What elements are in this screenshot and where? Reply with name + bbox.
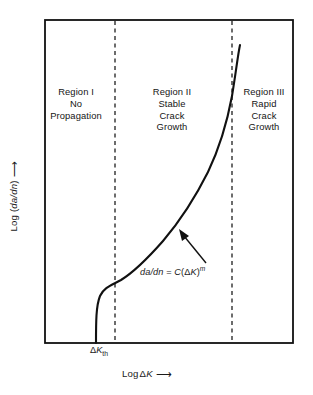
region-1-label: Region I No Propagation [38,86,114,121]
equation-exponent: m [200,265,206,272]
paris-law-equation: da/dn = C(ΔΔKK)m [140,265,205,277]
region-3-line-1: Region III [233,86,295,98]
region-2-line-3: Crack [122,110,222,122]
region-3-label: Region III Rapid Crack Growth [233,86,295,133]
x-axis-label: Log ΔK ⟶ [122,368,172,381]
region-3-line-2: Rapid [233,98,295,110]
region-1-line-1: Region I [38,86,114,98]
region-2-line-4: Growth [122,121,222,133]
plot-frame [45,20,293,343]
region-1-line-3: Propagation [38,110,114,122]
region-2-label: Region II Stable Crack Growth [122,86,222,133]
region-3-line-4: Growth [233,121,295,133]
region-3-line-3: Crack [233,110,295,122]
x-axis-arrow-icon: ⟶ [156,368,172,380]
region-2-line-2: Stable [122,98,222,110]
threshold-delta-k-label: ΔKth [74,345,124,357]
region-1-line-2: No [38,98,114,110]
y-axis-label: Log (da/dn) ⟶ [8,157,21,237]
figure-container: Region I No Propagation Region II Stable… [0,0,313,395]
y-axis-arrow-icon: ⟶ [8,161,20,177]
region-2-line-1: Region II [122,86,222,98]
equation-equals: = [164,267,175,277]
threshold-subscript: th [102,350,108,357]
x-axis-label-prefix: Log [122,368,139,379]
y-axis-label-prefix: Log [8,215,19,232]
x-axis-k-symbol: K [146,368,153,379]
y-axis-da-dn: da/dn [8,184,19,209]
equation-lhs: da/dn [140,267,164,277]
equation-delta-k: ΔΔKK [184,267,196,277]
crack-growth-plot [0,0,313,395]
